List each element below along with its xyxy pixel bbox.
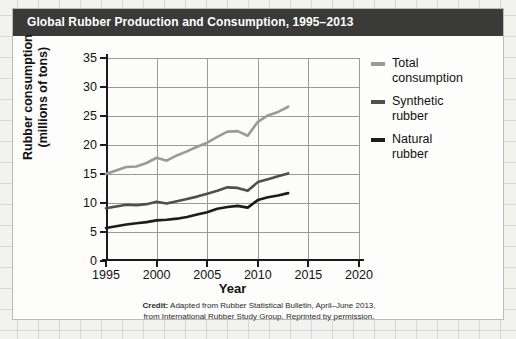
x-tick-mark [257,261,259,267]
legend-label-line1: Total [392,56,418,70]
legend-label-line1: Synthetic [392,94,443,108]
credit-label: Credit: [142,301,168,310]
x-tick-label: 2000 [143,268,171,282]
chart-area: Rubber consumption (millions of tons) 05… [13,36,505,321]
credit-line2: from International Rubber Study Group. R… [144,312,375,321]
legend-label-line2: rubber [392,147,428,161]
y-tick-label: 20 [83,138,97,152]
credit-note: Credit: Adapted from Rubber Statistical … [13,300,505,322]
y-axis-title-line1: Rubber consumption [21,34,35,160]
y-tick-label: 25 [83,109,97,123]
legend-label-natural-rubber: Naturalrubber [392,132,432,162]
series-line-natural-rubber [106,193,288,228]
legend-item-synthetic-rubber[interactable]: Syntheticrubber [371,94,497,124]
x-tick-mark [206,261,208,267]
gridline-vertical [359,58,360,261]
x-axis-title: Year [106,281,359,296]
legend-label-line1: Natural [392,132,432,146]
x-tick-mark [307,261,309,267]
credit-text1: Adapted from Rubber Statistical Bulletin… [168,301,375,310]
series-line-synthetic-rubber [106,173,288,208]
legend-label-total-consumption: Totalconsumption [392,56,463,86]
legend-label-line2: consumption [392,71,463,85]
y-tick-label: 10 [83,196,97,210]
x-tick-mark [156,261,158,267]
y-axis-title: Rubber consumption (millions of tons) [21,34,51,160]
y-axis-title-line2: (millions of tons) [36,47,50,148]
legend-label-synthetic-rubber: Syntheticrubber [392,94,443,124]
chart-legend: TotalconsumptionSyntheticrubberNaturalru… [371,56,497,170]
x-tick-mark [358,261,360,267]
plot-region: 05101520253035 199520002005201020152020 [106,58,359,261]
legend-item-total-consumption[interactable]: Totalconsumption [371,56,497,86]
legend-swatch-total-consumption [371,62,385,66]
x-tick-label: 1995 [92,268,120,282]
legend-swatch-synthetic-rubber [371,100,385,104]
series-line-total-consumption [106,107,288,174]
y-tick-label: 5 [90,225,97,239]
x-tick-mark [105,261,107,267]
y-tick-label: 35 [83,51,97,65]
figure-title-bar: Global Rubber Production and Consumption… [13,9,503,36]
legend-swatch-natural-rubber [371,138,385,142]
x-tick-label: 2020 [345,268,373,282]
credit-line1: Credit: Adapted from Rubber Statistical … [142,301,375,310]
y-tick-label: 15 [83,167,97,181]
figure-card: Global Rubber Production and Consumption… [12,8,504,320]
page-background: Global Rubber Production and Consumption… [0,0,516,339]
legend-item-natural-rubber[interactable]: Naturalrubber [371,132,497,162]
x-tick-label: 2005 [193,268,221,282]
y-tick-label: 30 [83,80,97,94]
data-series-layer [106,58,359,261]
x-tick-label: 2015 [294,268,322,282]
legend-label-line2: rubber [392,109,428,123]
y-tick-label: 0 [90,254,97,268]
page-title: Global Rubber Production and Consumption… [27,15,354,29]
x-tick-label: 2010 [244,268,272,282]
